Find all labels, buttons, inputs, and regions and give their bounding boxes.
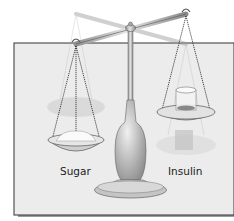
insulin-label: Insulin bbox=[168, 165, 202, 177]
ghost-insulin-vial bbox=[175, 130, 193, 150]
balance-diagram: Sugar Insulin bbox=[0, 0, 234, 221]
sugar-label: Sugar bbox=[60, 165, 91, 177]
diagram-canvas bbox=[0, 0, 234, 221]
